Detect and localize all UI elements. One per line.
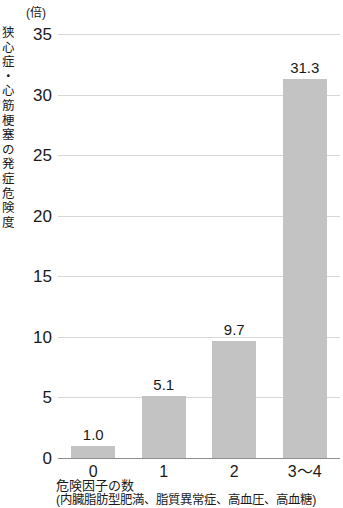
y-axis-title-char: ・ [2, 70, 22, 85]
y-axis-tick-label: 25 [8, 147, 52, 164]
y-axis-tick-label: 35 [8, 26, 52, 43]
bar-slot: 5.1 [129, 34, 200, 458]
y-axis-title-char: 梗 [2, 114, 22, 129]
x-axis-baseline [58, 458, 340, 459]
y-axis-tick-label: 5 [8, 389, 52, 406]
y-axis-tick-label: 20 [8, 208, 52, 225]
y-axis-tick-label: 15 [8, 268, 52, 285]
bar-slot: 9.7 [199, 34, 270, 458]
bar [283, 79, 327, 458]
y-axis-tick-label: 10 [8, 329, 52, 346]
y-axis-tick-label: 30 [8, 87, 52, 104]
bar-value-label: 9.7 [224, 322, 245, 338]
x-axis-label: 危険因子の数 [56, 478, 134, 493]
x-axis-caption: 危険因子の数 (内臓脂肪型肥満、脂質異常症、高血圧、高血糖) [56, 478, 316, 508]
y-axis-unit-label: (倍) [26, 6, 46, 20]
bar-value-label: 5.1 [153, 377, 174, 393]
y-axis-title-char: 危 [2, 187, 22, 202]
bar [212, 341, 256, 459]
bar [71, 446, 115, 458]
y-axis-tick-label: 0 [8, 450, 52, 467]
y-axis-title-char: 症 [2, 55, 22, 70]
y-axis-title-char: 塞 [2, 128, 22, 143]
bar [142, 396, 186, 458]
bar-value-label: 1.0 [83, 427, 104, 443]
bars-layer: 1.05.19.731.3 [58, 34, 340, 458]
bar-chart: (倍) 狭心症・心筋梗塞の発症危険度 1.05.19.731.3 0510152… [0, 0, 343, 508]
bar-slot: 1.0 [58, 34, 129, 458]
x-axis-label-note: (内臓脂肪型肥満、脂質異常症、高血圧、高血糖) [56, 493, 316, 508]
plot-area: 1.05.19.731.3 [58, 34, 340, 458]
y-axis-title-char: 症 [2, 172, 22, 187]
bar-slot: 31.3 [270, 34, 341, 458]
bar-value-label: 31.3 [290, 60, 319, 76]
